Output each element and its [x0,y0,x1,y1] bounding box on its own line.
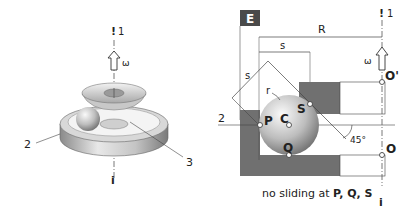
ball [76,107,100,131]
omega-label-right: ω [364,56,372,66]
point-C-label: C [280,112,289,126]
part-label-3: 3 [186,156,193,169]
dim-R-label: R [318,23,326,36]
point-Q-label: Q [283,141,293,155]
point-P [258,123,263,128]
caption-prefix: no sliding at [262,187,333,200]
omega-arrow-icon [108,51,120,70]
point-O [380,153,385,158]
point-O-prime [380,80,385,85]
caption: no sliding at P, Q, S [262,187,373,200]
axis-marker-top-right: ! [379,7,384,20]
omega-arrow-icon-right [376,47,388,70]
dim-s-diagonal-label: s [245,70,250,81]
axis-marker-bottom-right: i [379,196,383,209]
right-cross-section: E R s s 2 r P C Q S [218,7,399,209]
dim-s-horizontal-label: s [280,40,285,51]
bearing-diagram: ω ! 1 i 2 3 E R s s 2 [0,0,417,211]
point-S-label: S [297,102,306,116]
part-label-2: 2 [24,138,31,151]
caption-points: P, Q, S [333,187,372,200]
axis-marker-bottom: i [111,174,115,187]
point-O-label: O [386,142,396,156]
axis-label-top-right: 1 [387,8,393,19]
omega-label: ω [122,58,130,68]
axis-label-top: 1 [118,26,124,37]
left-isometric-bearing: ω ! 1 i 2 3 [24,25,193,187]
radius-label: r [266,85,271,96]
point-O-prime-label: O' [385,69,399,83]
line-2-label: 2 [218,112,225,125]
axis-marker-top: ! [111,25,116,38]
angle-label: 45° [350,135,366,145]
point-S [308,102,313,107]
panel-tag-label: E [246,12,254,26]
point-P-label: P [264,114,273,128]
